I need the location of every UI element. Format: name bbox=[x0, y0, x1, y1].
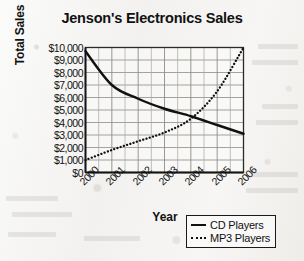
line-chart-figure: Jenson's Electronics Sales Total Sales $… bbox=[0, 0, 304, 261]
x-tick-label: 2006 bbox=[235, 163, 259, 187]
legend-item: MP3 Players bbox=[191, 231, 270, 244]
chart-legend: CD PlayersMP3 Players bbox=[186, 215, 276, 248]
legend-line-sample-solid-icon bbox=[191, 221, 206, 229]
x-tick-label: 2000 bbox=[77, 163, 101, 187]
x-tick-label: 2004 bbox=[182, 163, 206, 187]
legend-line-sample-dotted-icon bbox=[191, 234, 206, 242]
legend-label: MP3 Players bbox=[210, 232, 270, 244]
x-tick-label: 2003 bbox=[156, 163, 180, 187]
x-tick-label: 2005 bbox=[209, 163, 233, 187]
legend-item: CD Players bbox=[191, 218, 270, 231]
legend-label: CD Players bbox=[210, 219, 264, 231]
x-tick-label: 2002 bbox=[130, 163, 154, 187]
x-tick-label: 2001 bbox=[103, 163, 127, 187]
